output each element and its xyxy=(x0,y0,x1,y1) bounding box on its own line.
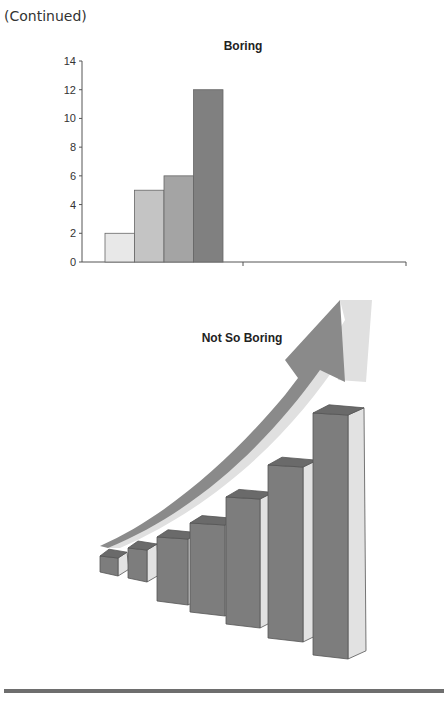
bar-front-face xyxy=(190,523,225,616)
bar-front-face xyxy=(268,465,303,642)
y-tick-label: 2 xyxy=(70,227,76,239)
bar xyxy=(164,176,194,262)
y-tick-label: 6 xyxy=(70,170,76,182)
bar-front-face xyxy=(313,413,348,659)
y-tick-label: 12 xyxy=(64,84,76,96)
not-so-boring-3d-chart: Not So Boring xyxy=(0,280,448,680)
boring-bar-chart: Boring 02468101214 xyxy=(0,0,448,275)
bars xyxy=(105,90,223,262)
chart-title: Boring xyxy=(224,39,263,53)
bar xyxy=(135,190,165,262)
bar xyxy=(194,90,224,262)
chart-title: Not So Boring xyxy=(202,331,283,345)
bar-front-face xyxy=(226,497,260,628)
y-tick-label: 0 xyxy=(70,256,76,268)
y-tick-label: 8 xyxy=(70,141,76,153)
bar-front-face xyxy=(157,537,188,605)
y-tick-label: 14 xyxy=(64,55,76,67)
bar-front-face xyxy=(100,556,118,576)
bar-side-face xyxy=(348,408,366,659)
bar-front-face xyxy=(128,548,147,582)
y-tick-label: 10 xyxy=(64,112,76,124)
y-tick-label: 4 xyxy=(70,199,76,211)
page-rule-divider xyxy=(4,689,444,693)
bar xyxy=(105,233,135,262)
